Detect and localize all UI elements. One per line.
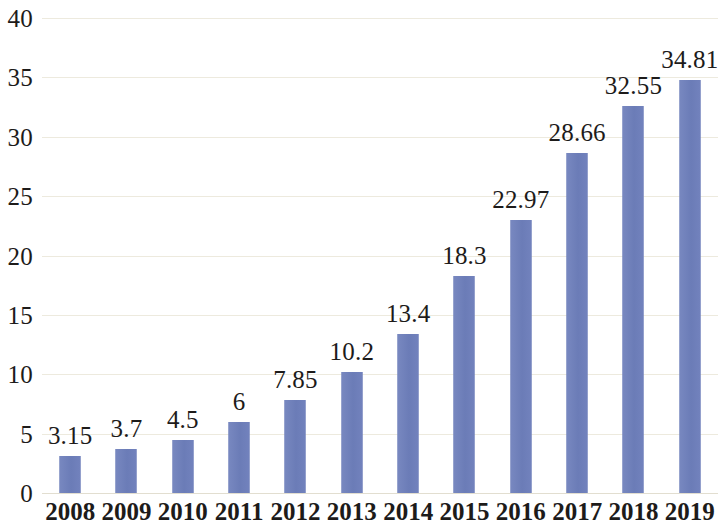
- bar-column: 4.5: [155, 18, 211, 493]
- bar-value-label: 13.4: [386, 301, 431, 326]
- bar-column: 32.55: [605, 18, 661, 493]
- bar-value-label: 7.85: [273, 367, 318, 392]
- bar-value-label: 3.15: [48, 423, 93, 448]
- bar: [341, 372, 362, 493]
- bar-column: 22.97: [493, 18, 549, 493]
- bar: [679, 80, 700, 493]
- x-tick-label: 2013: [324, 498, 380, 527]
- bar: [229, 422, 250, 493]
- y-tick-label: 15: [0, 303, 33, 328]
- bar-column: 3.7: [98, 18, 154, 493]
- x-tick-label: 2014: [380, 498, 436, 527]
- bar: [116, 449, 137, 493]
- x-tick-label: 2015: [436, 498, 492, 527]
- x-tick-label: 2008: [42, 498, 98, 527]
- bar-column: 18.3: [436, 18, 492, 493]
- x-tick-label: 2010: [155, 498, 211, 527]
- bar-value-label: 18.3: [442, 243, 487, 268]
- bar: [172, 440, 193, 493]
- bar: [567, 153, 588, 493]
- bar: [398, 334, 419, 493]
- y-tick-label: 25: [0, 184, 33, 209]
- y-tick-label: 5: [0, 422, 33, 447]
- bar-column: 28.66: [549, 18, 605, 493]
- bar-value-label: 3.7: [111, 416, 143, 441]
- x-tick-label: 2012: [267, 498, 323, 527]
- bar: [285, 400, 306, 493]
- bar-value-label: 34.81: [661, 47, 718, 72]
- plot-area: 3.153.74.567.8510.213.418.322.9728.6632.…: [42, 18, 718, 493]
- bar-value-label: 6: [233, 389, 246, 414]
- bar: [623, 106, 644, 493]
- y-tick-label: 20: [0, 244, 33, 269]
- x-axis: 2008200920102011201220132014201520162017…: [42, 498, 718, 530]
- x-tick-label: 2011: [211, 498, 267, 527]
- x-tick-label: 2009: [98, 498, 154, 527]
- y-tick-label: 40: [0, 6, 33, 31]
- bar-value-label: 22.97: [492, 187, 549, 212]
- bar-chart: 0510152025303540 3.153.74.567.8510.213.4…: [0, 0, 718, 530]
- y-tick-label: 30: [0, 125, 33, 150]
- y-tick-label: 0: [0, 481, 33, 506]
- y-axis: 0510152025303540: [0, 0, 42, 530]
- bar-value-label: 4.5: [167, 407, 199, 432]
- x-tick-label: 2016: [493, 498, 549, 527]
- bar: [454, 276, 475, 493]
- y-tick-label: 10: [0, 362, 33, 387]
- x-tick-label: 2018: [605, 498, 661, 527]
- bar-column: 13.4: [380, 18, 436, 493]
- bar: [60, 456, 81, 493]
- bar-column: 34.81: [662, 18, 718, 493]
- bar-column: 6: [211, 18, 267, 493]
- bar-value-label: 28.66: [549, 120, 606, 145]
- bar-column: 10.2: [324, 18, 380, 493]
- x-tick-label: 2017: [549, 498, 605, 527]
- gridline-0: [42, 493, 718, 494]
- bar-value-label: 32.55: [605, 73, 662, 98]
- x-tick-label: 2019: [662, 498, 718, 527]
- bar-column: 3.15: [42, 18, 98, 493]
- y-tick-label: 35: [0, 65, 33, 90]
- bar-column: 7.85: [267, 18, 323, 493]
- bar-value-label: 10.2: [330, 339, 375, 364]
- bar: [510, 220, 531, 493]
